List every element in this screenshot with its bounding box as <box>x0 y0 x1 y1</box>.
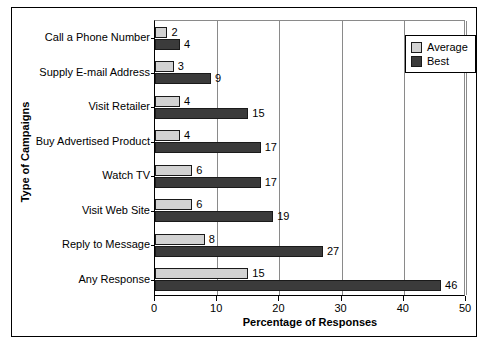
bar-avg <box>155 268 248 279</box>
legend-swatch-average <box>411 42 422 53</box>
bar-group: 417 <box>155 130 464 153</box>
bar-best <box>155 246 323 257</box>
bar-best <box>155 108 248 119</box>
plot-area: 24394154176176198271546 Average Best <box>154 20 465 296</box>
x-axis-tick <box>341 296 342 301</box>
bar-group: 617 <box>155 165 464 188</box>
bar-best <box>155 211 273 222</box>
bar-avg <box>155 61 174 72</box>
bar-group: 415 <box>155 96 464 119</box>
chart-figure: Type of Campaigns Call a Phone NumberSup… <box>11 7 477 337</box>
bar-avg <box>155 199 192 210</box>
legend-item-best: Best <box>411 54 468 68</box>
y-axis-category-label: Call a Phone Number <box>45 31 150 43</box>
x-axis-tick-label: 0 <box>151 302 157 314</box>
bar-value-label: 15 <box>252 108 264 119</box>
bar-best <box>155 280 441 291</box>
y-axis-tick <box>151 280 155 281</box>
legend-label-best: Best <box>427 55 449 67</box>
bar-value-label: 6 <box>196 199 202 210</box>
bar-best <box>155 39 180 50</box>
y-axis-tick <box>151 142 155 143</box>
y-axis-tick <box>151 73 155 74</box>
x-axis-tick-label: 20 <box>272 302 284 314</box>
bar-avg <box>155 130 180 141</box>
x-axis-tick-label: 10 <box>210 302 222 314</box>
y-axis-category-label: Supply E-mail Address <box>39 66 150 78</box>
y-axis-tick <box>151 211 155 212</box>
y-axis-category-label: Visit Retailer <box>88 100 150 112</box>
x-axis-tick <box>403 296 404 301</box>
y-axis-category-label: Buy Advertised Product <box>36 135 150 147</box>
bar-value-label: 15 <box>252 268 264 279</box>
bar-value-label: 4 <box>184 96 190 107</box>
legend-item-average: Average <box>411 40 468 54</box>
bar-value-label: 8 <box>209 234 215 245</box>
x-axis-tick <box>465 296 466 301</box>
y-axis-category-label: Watch TV <box>102 169 150 181</box>
x-axis-tick <box>154 296 155 301</box>
y-axis-category-label: Reply to Message <box>62 238 150 250</box>
bar-value-label: 17 <box>265 142 277 153</box>
x-axis: 01020304050 <box>154 296 466 318</box>
bar-value-label: 6 <box>196 165 202 176</box>
bar-value-label: 3 <box>178 61 184 72</box>
bar-value-label: 17 <box>265 177 277 188</box>
y-axis-category-label: Any Response <box>78 273 150 285</box>
x-axis-title: Percentage of Responses <box>154 316 466 328</box>
bar-value-label: 46 <box>445 280 457 291</box>
bar-best <box>155 73 211 84</box>
bar-avg <box>155 27 167 38</box>
bar-value-label: 4 <box>184 130 190 141</box>
x-axis-tick-label: 50 <box>459 302 471 314</box>
y-axis-category-labels: Call a Phone NumberSupply E-mail Address… <box>12 20 150 296</box>
bar-value-label: 4 <box>184 39 190 50</box>
y-axis-tick <box>151 245 155 246</box>
bar-best <box>155 142 261 153</box>
bar-value-label: 9 <box>215 73 221 84</box>
x-axis-tick <box>278 296 279 301</box>
x-axis-tick-label: 30 <box>334 302 346 314</box>
bar-avg <box>155 96 180 107</box>
bar-avg <box>155 234 205 245</box>
legend-swatch-best <box>411 56 422 67</box>
y-axis-tick <box>151 107 155 108</box>
x-axis-tick <box>216 296 217 301</box>
chart-legend: Average Best <box>405 35 476 73</box>
bar-group: 619 <box>155 199 464 222</box>
bar-best <box>155 177 261 188</box>
legend-label-average: Average <box>427 41 468 53</box>
bar-group: 1546 <box>155 268 464 291</box>
y-axis-category-label: Visit Web Site <box>82 204 150 216</box>
y-axis-tick <box>151 38 155 39</box>
y-axis-tick <box>151 176 155 177</box>
x-axis-tick-label: 40 <box>397 302 409 314</box>
bar-avg <box>155 165 192 176</box>
bar-value-label: 2 <box>171 27 177 38</box>
bar-group: 827 <box>155 234 464 257</box>
bar-value-label: 19 <box>277 211 289 222</box>
bar-value-label: 27 <box>327 246 339 257</box>
